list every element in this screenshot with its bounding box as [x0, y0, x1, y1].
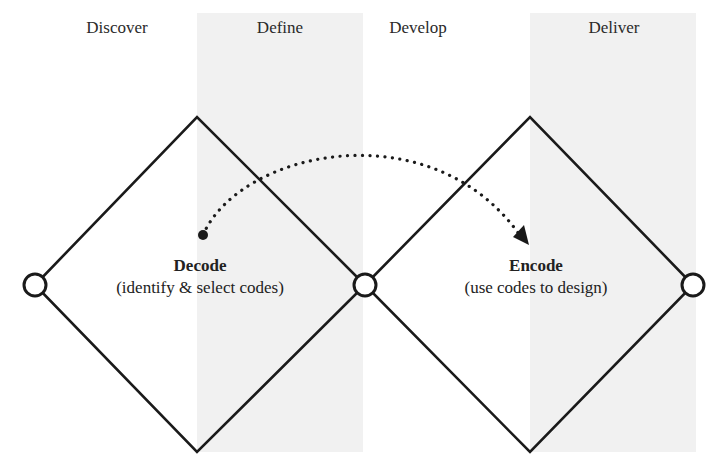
node-middle — [354, 274, 376, 296]
double-diamond-diagram — [0, 0, 725, 472]
phase-label-deliver: Deliver — [589, 18, 640, 38]
stage-encode-title: Encode — [464, 255, 607, 277]
phase-label-discover: Discover — [86, 18, 147, 38]
phase-label-develop: Develop — [389, 18, 447, 38]
stage-decode-subtitle: (identify & select codes) — [116, 277, 284, 299]
phase-label-define: Define — [257, 18, 303, 38]
node-end — [682, 274, 704, 296]
stage-decode: Decode (identify & select codes) — [116, 255, 284, 299]
connector-arrowhead-icon — [513, 225, 529, 245]
connector-start-dot — [198, 230, 208, 240]
node-start — [24, 274, 46, 296]
phase-shade-deliver — [530, 13, 696, 452]
stage-decode-title: Decode — [116, 255, 284, 277]
stage-encode: Encode (use codes to design) — [464, 255, 607, 299]
phase-shade-define — [197, 13, 363, 452]
stage-encode-subtitle: (use codes to design) — [464, 277, 607, 299]
